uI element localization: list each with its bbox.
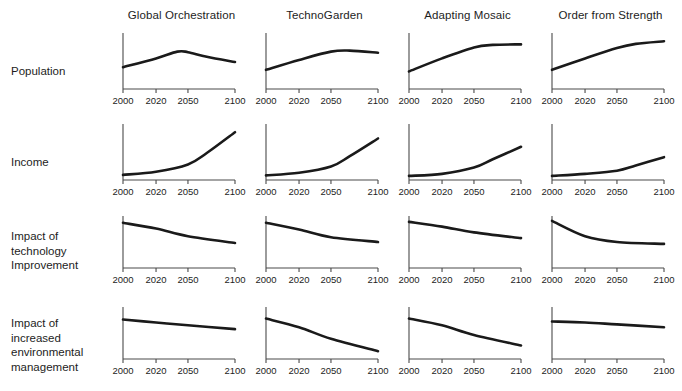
data-line-impact xyxy=(409,222,521,238)
x-tick-label-2000: 2000 xyxy=(398,274,419,285)
scenario-matrix-figure: Global Orchestration TechnoGarden Adapti… xyxy=(0,0,682,391)
x-tick-label-2050: 2050 xyxy=(320,95,341,106)
column-header-order-from-strength: Order from Strength xyxy=(539,9,682,21)
data-line-income xyxy=(123,132,235,175)
plot-area xyxy=(253,124,396,192)
row-label-impact-environmental: Impact ofincreasedenvironmentalmanagemen… xyxy=(11,316,107,374)
x-tick-label-2050: 2050 xyxy=(606,95,627,106)
data-line-population xyxy=(409,44,521,71)
data-line-impact xyxy=(266,223,378,242)
x-tick-label-group: 2000202020502100 xyxy=(110,186,253,200)
x-tick-label-2000: 2000 xyxy=(112,95,133,106)
x-tick-label-group: 2000202020502100 xyxy=(396,95,539,109)
x-tick-label-2050: 2050 xyxy=(320,186,341,197)
x-tick-label-2020: 2020 xyxy=(145,365,166,376)
data-line-impact xyxy=(123,320,235,330)
x-tick-label-group: 2000202020502100 xyxy=(110,95,253,109)
x-tick-label-2050: 2050 xyxy=(320,274,341,285)
x-tick-label-2050: 2050 xyxy=(463,186,484,197)
plot-area xyxy=(396,216,539,280)
panel-impact-of-increased-environmental-management-technogarden: 2000202020502100 xyxy=(253,307,396,371)
column-header-adapting-mosaic: Adapting Mosaic xyxy=(396,9,539,21)
x-tick-label-2020: 2020 xyxy=(431,274,452,285)
x-tick-label-2100: 2100 xyxy=(367,365,388,376)
x-tick-label-group: 2000202020502100 xyxy=(396,274,539,288)
panel-income-global-orchestration: 2000202020502100 xyxy=(110,124,253,192)
x-tick-label-group: 2000202020502100 xyxy=(539,365,682,379)
data-line-impact xyxy=(552,221,664,244)
x-tick-label-2000: 2000 xyxy=(398,365,419,376)
x-tick-label-2100: 2100 xyxy=(510,186,531,197)
x-tick-label-2050: 2050 xyxy=(463,95,484,106)
x-tick-label-2020: 2020 xyxy=(574,186,595,197)
data-line-income xyxy=(266,138,378,175)
x-tick-label-group: 2000202020502100 xyxy=(539,274,682,288)
x-tick-label-group: 2000202020502100 xyxy=(253,95,396,109)
x-tick-label-2020: 2020 xyxy=(431,365,452,376)
plot-area xyxy=(539,216,682,280)
x-tick-label-2020: 2020 xyxy=(145,186,166,197)
plot-area xyxy=(253,216,396,280)
x-tick-label-group: 2000202020502100 xyxy=(539,186,682,200)
x-tick-label-2100: 2100 xyxy=(653,365,674,376)
panel-population-global-orchestration: 2000202020502100 xyxy=(110,33,253,101)
column-header-global-orchestration: Global Orchestration xyxy=(110,9,253,21)
x-tick-label-group: 2000202020502100 xyxy=(253,365,396,379)
panel-income-order-from-strength: 2000202020502100 xyxy=(539,124,682,192)
x-tick-label-2020: 2020 xyxy=(431,95,452,106)
x-tick-label-group: 2000202020502100 xyxy=(396,365,539,379)
x-tick-label-2000: 2000 xyxy=(541,365,562,376)
x-tick-label-2000: 2000 xyxy=(112,274,133,285)
x-tick-label-2100: 2100 xyxy=(224,365,245,376)
x-tick-label-2050: 2050 xyxy=(606,274,627,285)
x-tick-label-2000: 2000 xyxy=(398,186,419,197)
x-tick-label-group: 2000202020502100 xyxy=(539,95,682,109)
x-tick-label-2020: 2020 xyxy=(288,95,309,106)
x-tick-label-2000: 2000 xyxy=(255,365,276,376)
plot-area xyxy=(396,307,539,371)
x-tick-label-group: 2000202020502100 xyxy=(253,186,396,200)
x-tick-label-2020: 2020 xyxy=(288,274,309,285)
panel-population-order-from-strength: 2000202020502100 xyxy=(539,33,682,101)
x-tick-label-2100: 2100 xyxy=(510,365,531,376)
panel-impact-of-increased-environmental-management-order-from-strength: 2000202020502100 xyxy=(539,307,682,371)
x-tick-label-group: 2000202020502100 xyxy=(396,186,539,200)
x-tick-label-2000: 2000 xyxy=(255,186,276,197)
plot-area xyxy=(110,124,253,192)
x-tick-label-2020: 2020 xyxy=(288,365,309,376)
panel-impact-of-technology-improvement-technogarden: 2000202020502100 xyxy=(253,216,396,280)
x-tick-label-2050: 2050 xyxy=(177,95,198,106)
row-label-income: Income xyxy=(11,155,107,170)
panel-impact-of-technology-improvement-global-orchestration: 2000202020502100 xyxy=(110,216,253,280)
plot-area xyxy=(539,33,682,101)
x-tick-label-2100: 2100 xyxy=(510,95,531,106)
row-label-impact-technology: Impact oftechnologyImprovement xyxy=(11,229,107,273)
x-tick-label-2020: 2020 xyxy=(574,95,595,106)
x-tick-label-2000: 2000 xyxy=(112,365,133,376)
panel-population-adapting-mosaic: 2000202020502100 xyxy=(396,33,539,101)
panel-impact-of-technology-improvement-adapting-mosaic: 2000202020502100 xyxy=(396,216,539,280)
data-line-population xyxy=(552,41,664,70)
x-tick-label-2100: 2100 xyxy=(367,274,388,285)
x-tick-label-2100: 2100 xyxy=(653,186,674,197)
x-tick-label-2100: 2100 xyxy=(367,95,388,106)
x-tick-label-2000: 2000 xyxy=(541,274,562,285)
x-tick-label-2100: 2100 xyxy=(224,95,245,106)
plot-area xyxy=(110,33,253,101)
x-tick-label-2050: 2050 xyxy=(320,365,341,376)
x-tick-label-2050: 2050 xyxy=(606,186,627,197)
x-tick-label-2050: 2050 xyxy=(177,365,198,376)
x-tick-label-2100: 2100 xyxy=(367,186,388,197)
x-tick-label-2020: 2020 xyxy=(145,95,166,106)
x-tick-label-2000: 2000 xyxy=(398,95,419,106)
x-tick-label-group: 2000202020502100 xyxy=(253,274,396,288)
column-header-technogarden: TechnoGarden xyxy=(253,9,396,21)
plot-area xyxy=(539,307,682,371)
x-tick-label-2000: 2000 xyxy=(541,186,562,197)
panel-impact-of-technology-improvement-order-from-strength: 2000202020502100 xyxy=(539,216,682,280)
data-line-impact xyxy=(123,223,235,243)
panel-population-technogarden: 2000202020502100 xyxy=(253,33,396,101)
panel-income-technogarden: 2000202020502100 xyxy=(253,124,396,192)
column-header-row: Global Orchestration TechnoGarden Adapti… xyxy=(110,9,682,29)
panel-income-adapting-mosaic: 2000202020502100 xyxy=(396,124,539,192)
